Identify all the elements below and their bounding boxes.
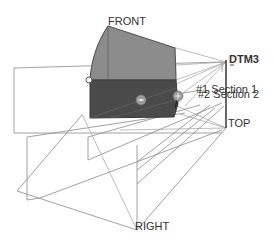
top-datum-plane[interactable] — [17, 113, 222, 230]
right-label[interactable]: RIGHT — [135, 220, 170, 232]
solid-body-lower[interactable] — [90, 80, 178, 118]
dtm3-label[interactable]: DTM3 — [229, 53, 259, 65]
spin-center-icon[interactable] — [136, 95, 146, 105]
section2-label[interactable]: #2 Section 2 — [198, 88, 259, 100]
model-viewport[interactable]: FRONT DTM3 #1 Section 1 #2 Section 2 TOP… — [0, 0, 274, 243]
vertex-marker-icon[interactable] — [86, 77, 92, 83]
front-label[interactable]: FRONT — [108, 15, 146, 27]
top-label[interactable]: TOP — [228, 117, 250, 129]
solid-body-upper[interactable] — [90, 26, 176, 80]
